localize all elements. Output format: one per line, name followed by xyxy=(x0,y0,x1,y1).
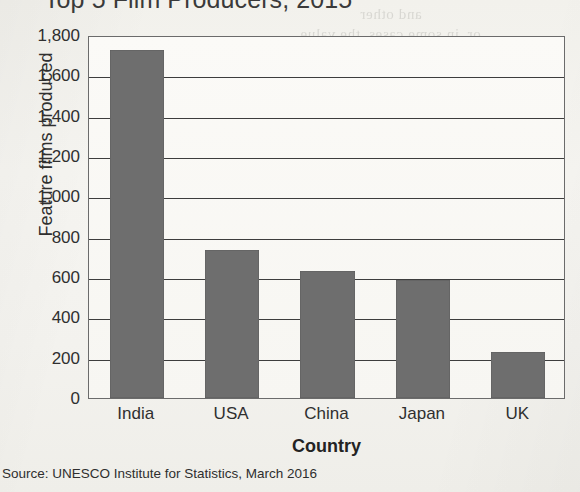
plot-area xyxy=(88,36,565,399)
y-axis-tick-label: 1,200 xyxy=(37,147,80,167)
y-axis-tick-label: 1,000 xyxy=(37,187,80,207)
y-axis-tick-label: 400 xyxy=(52,308,80,328)
x-axis-tick-label: China xyxy=(304,404,348,424)
bar xyxy=(491,352,545,398)
y-axis-tick-label: 1,600 xyxy=(37,66,80,86)
y-axis-tick-label: 600 xyxy=(52,268,80,288)
bar xyxy=(205,250,259,398)
y-axis-tick-label: 0 xyxy=(71,389,80,409)
source-note: Source: UNESCO Institute for Statistics,… xyxy=(2,466,317,481)
y-axis-tick-labels: 1,8001,6001,4001,2001,0008006004002000 xyxy=(0,36,80,399)
x-axis-tick-label: USA xyxy=(214,404,249,424)
y-axis-tick-label: 800 xyxy=(52,228,80,248)
x-axis-tick-label: UK xyxy=(505,404,529,424)
bar xyxy=(300,271,354,398)
y-axis-tick-label: 1,400 xyxy=(37,107,80,127)
bar xyxy=(396,280,450,398)
bar xyxy=(110,50,164,398)
y-axis-tick-label: 200 xyxy=(52,349,80,369)
x-axis-tick-labels: IndiaUSAChinaJapanUK xyxy=(88,404,565,430)
x-axis-tick-label: Japan xyxy=(399,404,445,424)
x-axis-tick-label: India xyxy=(117,404,154,424)
y-axis-tick-label: 1,800 xyxy=(37,26,80,46)
chart-title: Top 5 Film Producers, 2015 xyxy=(44,0,352,14)
bar-series xyxy=(89,37,564,398)
x-axis-title: Country xyxy=(88,436,565,457)
